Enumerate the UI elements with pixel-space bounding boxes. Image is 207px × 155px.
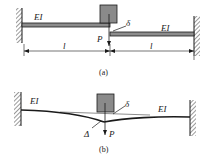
right-fixed-support xyxy=(194,16,200,56)
right-beam-deflected xyxy=(104,117,190,122)
weight-block xyxy=(100,5,117,23)
right-fixed-support xyxy=(190,100,196,136)
gap-label: δ xyxy=(126,18,131,28)
left-beam xyxy=(22,23,110,27)
deflection-label: Δ xyxy=(83,129,89,139)
right-beam-label: EI xyxy=(157,104,167,114)
left-beam-label: EI xyxy=(29,96,39,106)
left-fixed-support xyxy=(14,92,21,126)
gap-leader-line xyxy=(113,106,125,114)
figure-a-caption: (a) xyxy=(99,68,108,77)
figure-b: EI EI δ Δ P (b) xyxy=(14,92,196,154)
figure-a: EI EI δ P l l (a) xyxy=(16,5,200,77)
gap-label: δ xyxy=(125,99,130,109)
two-cantilever-beam-diagram: EI EI δ P l l (a) EI EI δ Δ P xyxy=(0,0,207,155)
left-beam-label: EI xyxy=(33,12,43,22)
right-beam-label: EI xyxy=(160,23,170,33)
figure-b-caption: (b) xyxy=(99,145,109,154)
left-fixed-support xyxy=(16,8,22,43)
weight-block xyxy=(97,94,114,112)
right-beam xyxy=(110,32,194,36)
left-span-label: l xyxy=(63,41,66,51)
left-beam-deflected xyxy=(21,110,104,122)
load-label: P xyxy=(108,129,115,139)
right-span-label: l xyxy=(150,41,153,51)
deflection-leader-line xyxy=(92,121,101,128)
gap-leader-line xyxy=(113,26,126,31)
load-label: P xyxy=(96,34,103,44)
span-dimension xyxy=(24,44,194,60)
